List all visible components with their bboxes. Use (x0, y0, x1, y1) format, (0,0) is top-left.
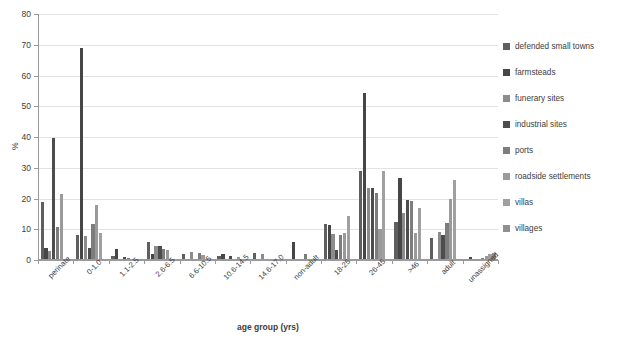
y-axis-tick-label: 20 (22, 194, 31, 204)
bar-group (144, 14, 179, 260)
bar (453, 180, 456, 260)
x-axis-tick-label-cell: unassigned (463, 262, 498, 322)
y-axis-tick-label: 30 (22, 163, 31, 173)
y-axis-tick-label: 60 (22, 71, 31, 81)
bar-group (215, 14, 250, 260)
legend: defended small townsfarmsteadsfunerary s… (503, 33, 625, 241)
figure-caption-strip (30, 334, 430, 342)
y-axis-tick-label: 10 (22, 224, 31, 234)
bar (438, 232, 441, 260)
bar (95, 205, 98, 260)
x-axis-tick-label-cell: 14.6-17.0 (250, 262, 285, 322)
bar (410, 201, 413, 260)
legend-label: ports (515, 146, 533, 155)
y-axis-tick-label: 50 (22, 101, 31, 111)
bar-chart: % 01020304050607080 perinate0-1.01.1-2.5… (0, 0, 628, 346)
bar (60, 194, 63, 260)
legend-item[interactable]: farmsteads (503, 59, 625, 85)
x-axis-tick-label-cell: 1.1-2.5 (109, 262, 144, 322)
x-axis-tick-label-cell: 6.6-10.5 (180, 262, 215, 322)
y-axis-tick-label: 80 (22, 9, 31, 19)
legend-label: farmsteads (515, 68, 556, 77)
x-axis-tick-label-cell: 0-1.0 (73, 262, 108, 322)
bar (339, 235, 342, 260)
bar-group (109, 14, 144, 260)
bar (449, 199, 452, 260)
bar (154, 246, 157, 260)
legend-label: villas (515, 198, 533, 207)
bar (406, 200, 409, 260)
legend-swatch-icon (503, 121, 510, 128)
legend-swatch-icon (503, 69, 510, 76)
x-axis-title: age group (yrs) (38, 322, 498, 332)
bar (375, 193, 378, 260)
legend-item[interactable]: roadside settlements (503, 163, 625, 189)
bar (363, 93, 366, 260)
legend-label: industrial sites (515, 120, 567, 129)
bar (414, 233, 417, 260)
legend-swatch-icon (503, 43, 510, 50)
bar (99, 233, 102, 260)
x-axis-tick-labels: perinate0-1.01.1-2.52.6-6.56.6-10.510.6-… (38, 262, 498, 322)
bar (52, 138, 55, 260)
bar (343, 233, 346, 260)
bar-group (463, 14, 498, 260)
x-axis-tick-label-cell: perinate (38, 262, 73, 322)
bar (41, 202, 44, 260)
x-axis-tick-label-cell: non-adult (286, 262, 321, 322)
bar (418, 208, 421, 260)
bar (91, 224, 94, 260)
bar (441, 235, 444, 260)
bar-group (392, 14, 427, 260)
bar (402, 213, 405, 260)
bar-group (180, 14, 215, 260)
legend-label: funerary sites (515, 94, 564, 103)
legend-item[interactable]: villages (503, 215, 625, 241)
bar-group (321, 14, 356, 260)
bar (147, 242, 150, 260)
bar (80, 48, 83, 260)
bar-group (250, 14, 285, 260)
y-axis-tick-label: 40 (22, 132, 31, 142)
bar (371, 188, 374, 260)
legend-item[interactable]: industrial sites (503, 111, 625, 137)
bar (347, 216, 350, 260)
legend-label: roadside settlements (515, 172, 591, 181)
legend-swatch-icon (503, 95, 510, 102)
x-axis-line (38, 259, 498, 260)
x-axis-tick-label-cell: 2.6-6.5 (144, 262, 179, 322)
bar-group (357, 14, 392, 260)
x-axis-tick-label-cell: adult (427, 262, 462, 322)
bar (56, 227, 59, 260)
bar-group (73, 14, 108, 260)
x-axis-tick-label-cell: >46 (392, 262, 427, 322)
bar (324, 224, 327, 260)
gridline (38, 260, 498, 261)
legend-item[interactable]: ports (503, 137, 625, 163)
y-axis-title: % (10, 142, 20, 150)
legend-swatch-icon (503, 199, 510, 206)
legend-swatch-icon (503, 147, 510, 154)
legend-item[interactable]: defended small towns (503, 33, 625, 59)
legend-item[interactable]: funerary sites (503, 85, 625, 111)
legend-item[interactable]: villas (503, 189, 625, 215)
x-axis-tick-label-cell: 26-45 (357, 262, 392, 322)
bar (292, 242, 295, 260)
bar (76, 235, 79, 260)
y-axis-tick-label: 0 (26, 255, 31, 265)
bar (398, 178, 401, 260)
bar (382, 171, 385, 260)
x-axis-tick-label: >46 (405, 259, 420, 274)
bar-group (38, 14, 73, 260)
bar (84, 236, 87, 260)
bar (331, 234, 334, 260)
bar (430, 238, 433, 260)
legend-label: defended small towns (515, 42, 594, 51)
x-axis-tick-label-cell: 10.6-14.5 (215, 262, 250, 322)
bar (378, 229, 381, 260)
bar (158, 246, 161, 260)
plot-area: 01020304050607080 (38, 14, 498, 260)
bar (367, 188, 370, 260)
x-axis-tick (498, 260, 499, 264)
bar (394, 222, 397, 260)
